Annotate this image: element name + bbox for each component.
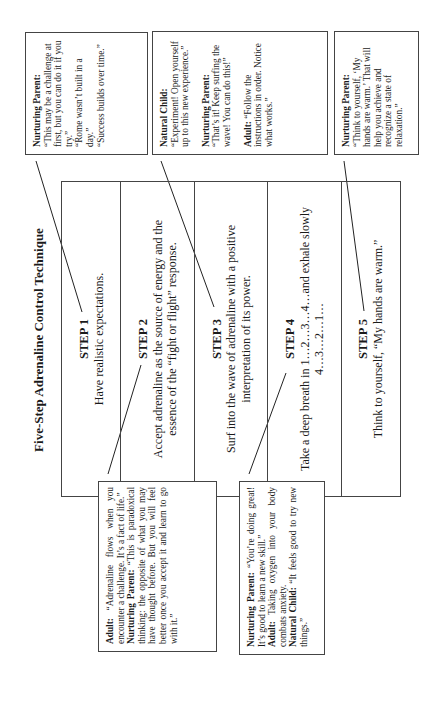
role-label: Adult: bbox=[243, 121, 253, 147]
step-1-cell: STEP 1 Have realistic expectations. bbox=[62, 182, 121, 496]
role-label: Nurturing Parent: bbox=[126, 569, 136, 644]
callout-quote: “Success builds over time.” bbox=[96, 38, 107, 147]
step-5-cell: STEP 5 Think to yourself, “My hands are … bbox=[342, 182, 400, 496]
role-label: Nurturing Parent: bbox=[341, 74, 351, 147]
callout-step-4: Nurturing Parent: “You’re doing great! I… bbox=[239, 481, 325, 655]
callout-quote: “Rome wasn’t built in a day.” bbox=[74, 38, 95, 147]
callout-step-3: Natural Child: “Experiment! Open yoursel… bbox=[152, 31, 328, 155]
callout-step-1: Nurturing Parent: “This may be a challen… bbox=[25, 32, 148, 155]
callout-quote: “Experiment! Open yourself up to this ne… bbox=[170, 37, 191, 147]
callout-step-2: Adult: “Adrenaline flows when you encoun… bbox=[98, 481, 217, 652]
page-title: Five-Step Adrenaline Control Technique bbox=[29, 180, 49, 500]
step-2-label: STEP 2 bbox=[136, 202, 151, 476]
role-label: Nurturing Parent: bbox=[201, 74, 211, 147]
step-3-cell: STEP 3 Surf into the wave of adrenaline … bbox=[195, 182, 268, 496]
step-1-label: STEP 1 bbox=[77, 182, 92, 496]
role-label: Nurturing Parent: bbox=[246, 572, 256, 647]
step-4-label: STEP 4 bbox=[283, 182, 298, 496]
callout-step-5: Nurturing Parent: “Think to yourself, ‘M… bbox=[334, 31, 419, 155]
callout-quote: “Think to yourself, ‘My hands are warm.’… bbox=[352, 37, 405, 147]
role-label: Adult: bbox=[267, 621, 277, 647]
step-4-cell: STEP 4 Take a deep breath in 1…2…3…4…and… bbox=[268, 182, 342, 496]
callout-quote: “That’s it! Keep surfing the wave! You c… bbox=[211, 37, 232, 147]
step-4-text-countdown: 4…3…2…1… bbox=[312, 182, 327, 496]
role-label: Natural Child: bbox=[159, 88, 169, 147]
step-2-cell: STEP 2 Accept adrenaline as the source o… bbox=[121, 182, 195, 496]
role-label: Nurturing Parent: bbox=[32, 74, 42, 147]
role-label: Adult: bbox=[105, 618, 115, 644]
step-5-label: STEP 5 bbox=[356, 182, 371, 496]
callout-quote: “This may be a challenge at first, but y… bbox=[43, 38, 75, 147]
role-label: Natural Child: bbox=[288, 587, 298, 647]
step-3-label: STEP 3 bbox=[210, 212, 225, 466]
step-1-text: Have realistic expectations. bbox=[92, 182, 107, 496]
steps-table: STEP 1 Have realistic expectations. STEP… bbox=[61, 181, 401, 497]
step-5-text: Think to yourself, “My hands are warm.” bbox=[371, 182, 386, 496]
step-3-text: Surf into the wave of adrenaline with a … bbox=[224, 212, 253, 466]
step-4-text: Take a deep breath in 1…2…3…4…and exhale… bbox=[298, 182, 313, 496]
step-2-text: Accept adrenaline as the source of energ… bbox=[151, 202, 180, 476]
